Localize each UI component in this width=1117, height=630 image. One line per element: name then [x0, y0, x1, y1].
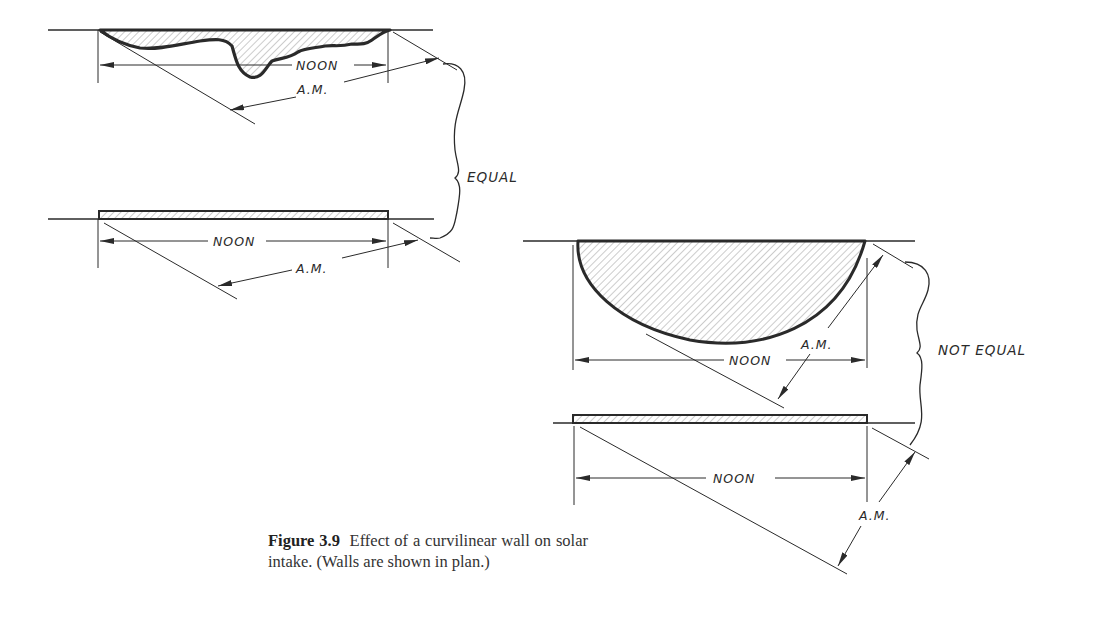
left-top-wall-group: NOON A.M.	[48, 30, 457, 124]
am-ray-line	[580, 427, 847, 574]
am-dimension-left	[778, 354, 810, 399]
brace-icon	[905, 262, 929, 445]
am-dimension-right	[342, 240, 418, 258]
am-ray-line	[873, 244, 913, 268]
figure-number: Figure 3.9	[268, 531, 340, 550]
not-equal-brace-group: NOT EQUAL	[905, 262, 1026, 445]
am-label: A.M.	[800, 337, 833, 352]
am-ray-line	[872, 428, 929, 459]
am-dimension-right	[344, 58, 439, 82]
noon-label: NOON	[713, 471, 755, 486]
noon-label: NOON	[213, 234, 255, 249]
flat-wall	[573, 415, 867, 423]
figure-caption: Figure 3.9 Effect of a curvilinear wall …	[268, 530, 588, 572]
am-label: A.M.	[296, 82, 329, 97]
noon-label: NOON	[296, 58, 338, 73]
right-bottom-wall-group: NOON A.M.	[553, 415, 929, 574]
am-ray-line	[393, 223, 460, 262]
am-label: A.M.	[295, 261, 328, 276]
not-equal-label: NOT EQUAL	[938, 342, 1026, 358]
brace-icon	[430, 64, 465, 239]
equal-label: EQUAL	[467, 169, 518, 185]
am-dimension-right	[879, 452, 915, 502]
irregular-wall	[100, 30, 390, 77]
left-bottom-wall-group: NOON A.M.	[48, 211, 460, 299]
flat-wall	[99, 211, 388, 219]
semicircular-wall	[578, 241, 865, 343]
am-dimension-left	[230, 97, 296, 110]
am-dimension-left	[218, 270, 292, 286]
am-ray-line	[646, 334, 784, 408]
noon-label: NOON	[729, 353, 771, 368]
right-top-wall-group: NOON A.M.	[523, 241, 915, 408]
am-dimension-left	[838, 526, 861, 566]
equal-brace-group: EQUAL	[430, 64, 518, 239]
am-label: A.M.	[858, 508, 891, 523]
